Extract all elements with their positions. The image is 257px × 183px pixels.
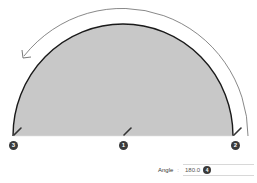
semicircle-shape [13, 24, 233, 136]
angle-field-row: Angle : 180.0 4 [158, 164, 254, 176]
semicircle-diagram [0, 0, 257, 183]
point-badge-center: 1 [119, 141, 128, 150]
angle-label: Angle [158, 167, 173, 173]
point-badge-end: 3 [9, 141, 18, 150]
angle-input[interactable]: 180.0 4 [183, 164, 254, 176]
angle-badge: 4 [203, 166, 211, 174]
point-badge-start: 2 [231, 141, 240, 150]
angle-separator: : [177, 167, 179, 173]
arrow-head-icon [22, 50, 31, 58]
angle-value: 180.0 [185, 167, 200, 173]
pencil-icon [234, 128, 241, 135]
